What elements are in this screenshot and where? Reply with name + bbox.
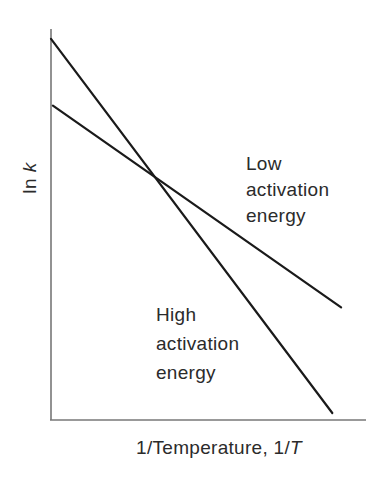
label-line: activation [156,329,239,358]
x-axis-label: 1/Temperature, 1/T [136,437,302,459]
y-axis-label: ln k [19,162,41,194]
label-line: energy [156,358,239,387]
label-low-activation-energy: Low activation energy [246,151,329,229]
label-high-activation-energy: High activation energy [156,300,239,387]
label-line: energy [246,203,329,229]
chart-canvas [0,0,386,480]
label-line: Low [246,151,329,177]
label-line: High [156,300,239,329]
label-line: activation [246,177,329,203]
